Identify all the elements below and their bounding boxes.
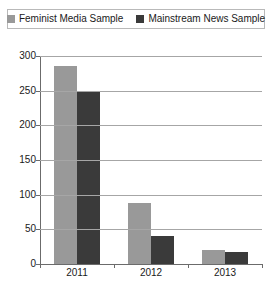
y-axis-tickmark [36, 125, 40, 126]
y-axis-tick-label: 0 [10, 259, 36, 269]
bar [151, 236, 174, 264]
bar-chart: Feminist Media Sample Mainstream News Sa… [0, 0, 280, 294]
gridline [40, 229, 262, 230]
y-axis-tickmark [36, 91, 40, 92]
y-axis-tick-label: 300 [10, 51, 36, 61]
x-axis-tick-label: 2011 [40, 268, 114, 278]
gridline [40, 264, 262, 265]
bar [128, 203, 151, 264]
x-axis-tick-labels: 201120122013 [40, 268, 262, 278]
gridline [40, 195, 262, 196]
plot-wrapper: 050100150200250300 201120122013 [0, 0, 280, 294]
gridline [40, 160, 262, 161]
y-axis-tickmark [36, 160, 40, 161]
bar [225, 252, 248, 264]
y-axis-tickmark [36, 195, 40, 196]
bar [54, 66, 77, 264]
y-axis-tick-label: 150 [10, 155, 36, 165]
x-axis-tick-label: 2012 [114, 268, 188, 278]
y-axis-tick-label: 200 [10, 120, 36, 130]
gridline [40, 91, 262, 92]
plot-area [40, 56, 262, 264]
gridline [40, 125, 262, 126]
gridline [40, 56, 262, 57]
bar [77, 91, 100, 264]
y-axis-tick-label: 100 [10, 190, 36, 200]
y-axis-tick-labels: 050100150200250300 [6, 0, 36, 294]
y-axis-tick-label: 250 [10, 86, 36, 96]
y-axis-tickmark [36, 56, 40, 57]
bar [202, 250, 225, 264]
y-axis-tickmark [36, 229, 40, 230]
y-axis-tick-label: 50 [10, 224, 36, 234]
x-axis-tickmark [262, 264, 263, 268]
x-axis-tick-label: 2013 [188, 268, 262, 278]
